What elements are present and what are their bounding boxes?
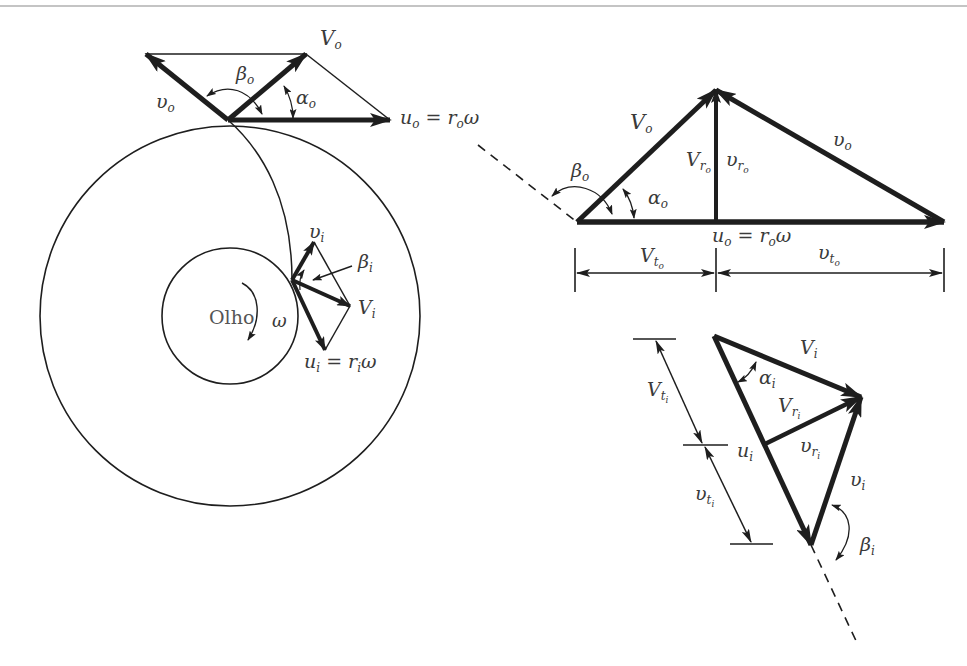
label-otri-vr: υro xyxy=(726,150,749,175)
inlet-parallelogram-b xyxy=(325,306,350,350)
inlet-blade-dashed-line xyxy=(811,545,858,645)
label-itri-beta: βi xyxy=(860,535,875,557)
label-itri-vt: υti xyxy=(695,484,714,509)
label-itri-Vt: Vti xyxy=(647,380,668,405)
label-otri-Vt: Vto xyxy=(640,246,664,271)
label-inlet-beta: βi xyxy=(358,252,373,274)
outlet-triangle-group xyxy=(478,90,944,292)
label-itri-Vr: Vri xyxy=(778,396,800,421)
blade-curve xyxy=(228,120,292,280)
label-eye: Olho xyxy=(209,308,254,327)
label-outlet-alpha: αo xyxy=(296,88,316,110)
inlet-tri-alpha-arc xyxy=(738,362,756,382)
inlet-beta-pointer xyxy=(313,266,352,280)
label-otri-vt: υto xyxy=(818,243,840,268)
label-outlet-v: υo xyxy=(156,92,175,114)
label-inlet-u-eq: ui = riω xyxy=(304,352,377,374)
inlet-vector-v xyxy=(292,242,314,280)
label-outlet-u-eq: uo = roω xyxy=(400,108,479,130)
label-itri-v: υi xyxy=(850,470,865,492)
label-otri-beta: βo xyxy=(571,161,589,183)
label-inlet-V: Vi xyxy=(358,298,376,320)
label-itri-vr: υri xyxy=(800,436,820,461)
label-outlet-beta: βo xyxy=(236,64,254,86)
outlet-tri-v xyxy=(716,90,944,222)
label-otri-v: υo xyxy=(833,130,852,152)
label-omega: ω xyxy=(272,312,287,330)
outlet-alpha-arc xyxy=(284,86,293,118)
label-otri-V: Vo xyxy=(630,112,652,135)
label-otri-u-eq: uo = roω xyxy=(712,226,791,248)
label-itri-V: Vi xyxy=(800,338,818,360)
label-itri-u: ui xyxy=(737,441,753,463)
label-outlet-V: Vo xyxy=(320,28,342,51)
label-otri-Vr: Vro xyxy=(686,150,711,175)
inlet-tri-beta-arc xyxy=(832,505,849,560)
outlet-parallelogram-right xyxy=(306,54,390,120)
label-inlet-v: υi xyxy=(309,222,324,244)
label-otri-alpha: αo xyxy=(648,188,668,210)
impeller-group xyxy=(40,54,420,506)
outlet-tri-alpha-arc xyxy=(623,189,634,218)
label-itri-alpha: αi xyxy=(759,368,776,390)
velocity-diagram-canvas xyxy=(0,0,967,666)
outlet-blade-dashed-line xyxy=(478,145,577,222)
